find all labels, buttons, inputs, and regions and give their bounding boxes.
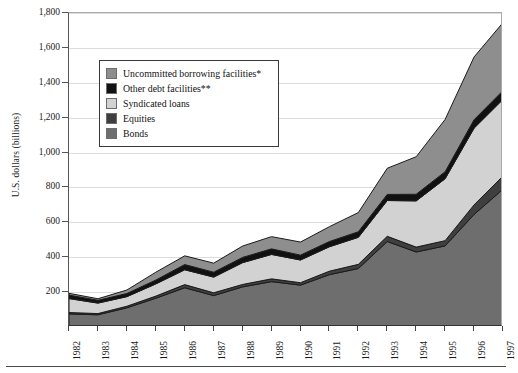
x-tick-mark (300, 326, 301, 331)
x-tick-mark (213, 326, 214, 331)
x-tick-label: 1986 (188, 341, 198, 360)
x-tick-label: 1993 (390, 341, 400, 360)
y-tick-label: 1,200 (2, 112, 60, 122)
x-tick-mark (386, 326, 387, 331)
x-tick-mark (357, 326, 358, 331)
x-tick-label: 1982 (72, 341, 82, 360)
y-tick-label: 1,400 (2, 77, 60, 87)
x-tick-label: 1991 (332, 341, 342, 360)
x-tick-label: 1985 (159, 341, 169, 360)
legend-item-label: Other debt facilities** (123, 83, 211, 94)
legend-swatch-icon (106, 128, 117, 139)
x-tick-label: 1996 (477, 341, 487, 360)
x-tick-mark (68, 326, 69, 331)
legend-item-label: Uncommitted borrowing facilities* (123, 68, 261, 79)
x-tick-label: 1989 (275, 341, 285, 360)
x-tick-label: 1997 (506, 341, 516, 360)
legend-swatch-icon (106, 98, 117, 109)
legend-item: Syndicated loans (106, 96, 272, 111)
x-tick-mark (328, 326, 329, 331)
x-tick-label: 1983 (101, 341, 111, 360)
y-tick-label: 1,800 (2, 7, 60, 17)
x-tick-mark (473, 326, 474, 331)
y-tick-label: 200 (2, 286, 60, 296)
footer-rule (6, 366, 506, 367)
x-tick-mark (271, 326, 272, 331)
legend-swatch-icon (106, 68, 117, 79)
y-tick-label: 1,000 (2, 147, 60, 157)
x-tick-label: 1984 (130, 341, 140, 360)
x-tick-mark (184, 326, 185, 331)
y-tick-label: 1,600 (2, 42, 60, 52)
legend-item: Other debt facilities** (106, 81, 272, 96)
x-tick-label: 1988 (246, 341, 256, 360)
chart-legend: Uncommitted borrowing facilities*Other d… (99, 60, 279, 147)
x-tick-mark (502, 326, 503, 331)
legend-item-label: Equities (123, 113, 155, 124)
legend-item: Bonds (106, 126, 272, 141)
chart-container: U.S. dollars (billions) 02004006008001,0… (0, 0, 518, 373)
x-tick-label: 1987 (217, 341, 227, 360)
x-tick-mark (444, 326, 445, 331)
legend-item: Equities (106, 111, 272, 126)
y-tick-label: 600 (2, 216, 60, 226)
x-tick-label: 1995 (448, 341, 458, 360)
legend-swatch-icon (106, 83, 117, 94)
x-tick-mark (97, 326, 98, 331)
legend-item: Uncommitted borrowing facilities* (106, 66, 272, 81)
x-tick-mark (242, 326, 243, 331)
x-tick-label: 1994 (419, 341, 429, 360)
legend-swatch-icon (106, 113, 117, 124)
legend-item-label: Syndicated loans (123, 98, 190, 109)
x-tick-label: 1992 (361, 341, 371, 360)
x-tick-mark (155, 326, 156, 331)
x-tick-mark (126, 326, 127, 331)
y-tick-label: 400 (2, 251, 60, 261)
legend-item-label: Bonds (123, 128, 148, 139)
x-tick-mark (415, 326, 416, 331)
y-tick-label: 800 (2, 181, 60, 191)
x-tick-label: 1990 (304, 341, 314, 360)
